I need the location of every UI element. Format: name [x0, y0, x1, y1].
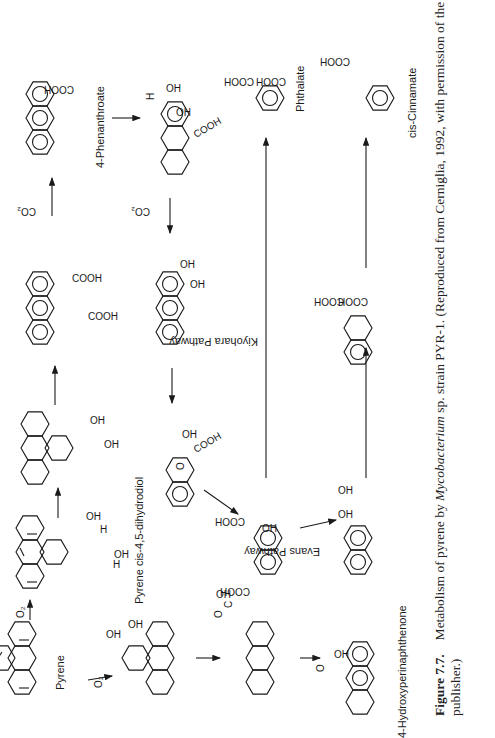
- cis-cinnamate-structure: [366, 86, 394, 110]
- ph-dihydrodiol-oh2: OH: [176, 107, 191, 118]
- rc-o: O: [175, 462, 186, 470]
- phthalate-cooh1: COOH: [224, 76, 254, 87]
- ph-dihydrodiol-oh1: OH: [166, 83, 181, 94]
- nd-cooh2: COOH: [338, 296, 368, 307]
- hp-oh: OH: [334, 649, 349, 660]
- phenanthroate-cooh: COOH: [44, 84, 74, 95]
- organism-name: Mycobacterium: [432, 416, 447, 501]
- dhp-oh2: OH: [180, 259, 195, 270]
- dihydrodiol-label: Pyrene cis-4,5-dihydrodiol: [133, 477, 145, 604]
- o2-label-lower: O₂: [93, 676, 104, 688]
- dihydroxynaphthalene-structure: [344, 526, 372, 574]
- o2-label: O₂: [15, 606, 26, 618]
- ph-dihydrodiol-cooh: COOH: [192, 115, 223, 140]
- dihydrodiol-h1: H: [100, 524, 107, 535]
- figure-caption-line1: Figure 7.7.Metabolism of pyrene by Mycob…: [432, 2, 448, 716]
- figure-number: Figure 7.7.: [432, 654, 447, 716]
- dhp-oh1: OH: [190, 279, 205, 290]
- naphthalene-dicarboxylate-structure: [344, 316, 372, 364]
- phenanthroate-label: 4-Phenanthroate: [94, 86, 106, 168]
- dicarboxylate-structure: [26, 272, 54, 344]
- diol-oh2: OH: [104, 439, 119, 450]
- evans-pathway-label: Evans Pathway: [244, 546, 320, 558]
- pa-o: O: [213, 610, 224, 618]
- hydroxyperinaphthenone-label: 4-Hydroxyperinaphthenone: [396, 605, 408, 738]
- phthalate-cooh2: COOH: [256, 76, 286, 87]
- hydroxyperinaphthenone-structure: [346, 642, 374, 714]
- ph-dihydrodiol-h: H: [145, 93, 156, 100]
- figure-caption-line2: publisher.): [448, 659, 464, 716]
- arrow-to-naphthoate: [204, 490, 238, 514]
- phthalate-structure: [256, 86, 284, 110]
- diol-oh1: OH: [90, 415, 105, 426]
- p12-oh1: OH: [128, 619, 143, 630]
- dihydrodiol-oh1: OH: [86, 511, 101, 522]
- naph-cooh: COOH: [215, 516, 245, 527]
- co2-label-top: CO₂: [17, 206, 36, 217]
- phthalate-label: Phthalate: [294, 66, 306, 112]
- rc-oh: OH: [182, 429, 197, 440]
- kiyohara-pathway-label: Kiyohara Pathway: [169, 336, 258, 348]
- pyrene-dihydrodiol-structure: [16, 516, 68, 588]
- dhn-oh2: OH: [338, 485, 353, 496]
- arrow-evans: [300, 520, 336, 528]
- hp-o: O: [315, 664, 326, 672]
- figure-page: Pyrene O₂ OH H OH H Pyrene cis-4,5-dihyd…: [0, 0, 495, 738]
- dihydrodiol-h2: H: [113, 559, 120, 570]
- dihydroxyphenanthrene-structure: [156, 272, 184, 344]
- naph-oh: OH: [262, 523, 277, 534]
- pathway-diagram: Pyrene O₂ OH H OH H Pyrene cis-4,5-dihyd…: [0, 0, 495, 738]
- cinnamate-label: cis-Cinnamate: [406, 68, 418, 138]
- pyrene-label: Pyrene: [54, 655, 66, 690]
- pyrene-45-diol-structure: [21, 412, 73, 484]
- pa-c: C: [223, 601, 234, 608]
- pa-cooh: COOH: [220, 586, 250, 597]
- cinnamate-cooh: COOH: [320, 56, 350, 67]
- dicarboxylate-cooh1: COOH: [72, 273, 102, 284]
- pyrene-12-diol-structure: [122, 622, 174, 694]
- dicarboxylate-cooh2: COOH: [88, 311, 118, 322]
- pyrene-structure: [0, 622, 36, 694]
- perinaphthenone-acid-structure: [246, 622, 274, 694]
- p12-oh2: OH: [106, 629, 121, 640]
- dhn-oh1: OH: [338, 509, 353, 520]
- co2-label-mid: CO₂: [131, 206, 150, 217]
